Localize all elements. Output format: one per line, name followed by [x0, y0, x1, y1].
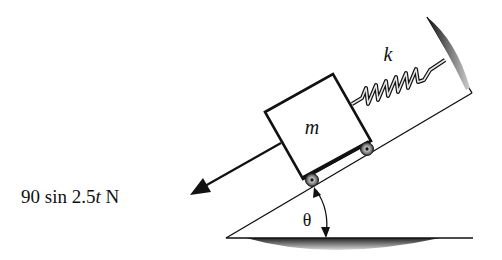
- force-label: 90 sin 2.5t N: [21, 186, 119, 207]
- ground-shading: [246, 238, 440, 250]
- force-arrow-shaft: [205, 143, 281, 186]
- angle-arrowhead-bottom-icon: [321, 227, 330, 238]
- wheel-right: [361, 143, 374, 156]
- spring: [352, 60, 445, 104]
- force-arrowhead-icon: [190, 178, 211, 195]
- diagram-canvas: m k 90 sin 2.5t N θ: [0, 0, 502, 260]
- mass-label: m: [305, 116, 319, 138]
- spring-label: k: [384, 43, 394, 65]
- angle-label: θ: [303, 210, 312, 230]
- wheel-left: [306, 174, 319, 187]
